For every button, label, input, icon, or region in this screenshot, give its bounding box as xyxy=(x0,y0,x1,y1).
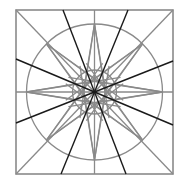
diagram-canvas xyxy=(0,0,180,183)
star-fan-line xyxy=(46,85,85,140)
star-fan-line xyxy=(88,101,143,140)
star-fan-line xyxy=(46,44,101,83)
